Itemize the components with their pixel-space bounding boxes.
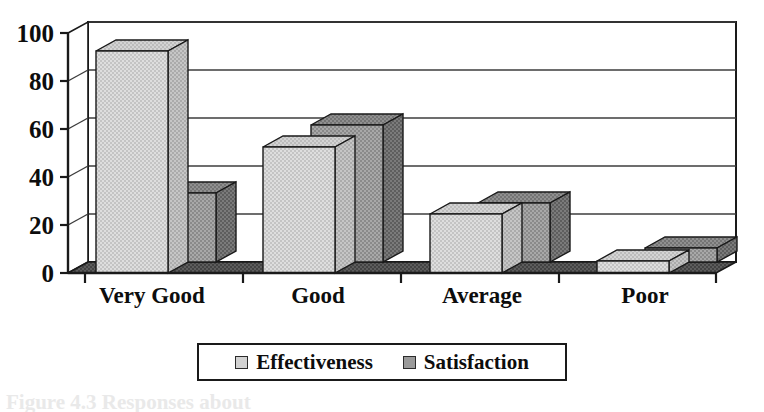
y-tick-label-80: 80 bbox=[29, 68, 54, 95]
bar-front-face bbox=[430, 214, 502, 273]
bar-chart: 100 80 60 40 20 0 Very Good Good Average bbox=[0, 0, 764, 316]
bar-front-face bbox=[597, 261, 669, 273]
bar-front-face bbox=[263, 147, 335, 273]
plot-side-wall bbox=[68, 22, 88, 273]
bar-front-face bbox=[96, 51, 168, 273]
legend-label-effectiveness: Effectiveness bbox=[256, 352, 373, 373]
y-tick-label-60: 60 bbox=[29, 116, 54, 143]
bar-side-face bbox=[335, 136, 355, 273]
y-tick-label-20: 20 bbox=[29, 212, 54, 239]
x-tick-label-good: Good bbox=[291, 283, 345, 308]
chart-canvas: 100 80 60 40 20 0 Very Good Good Average bbox=[0, 0, 764, 316]
bar-side-face bbox=[502, 203, 522, 273]
x-tick-label-poor: Poor bbox=[621, 283, 668, 308]
x-axis-ticks bbox=[85, 273, 716, 283]
y-tick-label-0: 0 bbox=[42, 260, 55, 287]
bar-very-good-effectiveness[interactable] bbox=[96, 40, 188, 273]
y-tick-label-100: 100 bbox=[17, 20, 55, 47]
bar-side-face bbox=[168, 40, 188, 273]
legend-swatch-icon bbox=[235, 356, 248, 369]
x-tick-label-average: Average bbox=[442, 283, 522, 308]
legend-label-satisfaction: Satisfaction bbox=[424, 352, 529, 373]
bar-poor-effectiveness[interactable] bbox=[597, 250, 689, 273]
bar-side-face bbox=[550, 192, 570, 262]
bar-average-effectiveness[interactable] bbox=[430, 203, 522, 273]
bar-good-effectiveness[interactable] bbox=[263, 136, 355, 273]
side-wall-poly bbox=[68, 22, 88, 273]
y-tick-label-40: 40 bbox=[29, 164, 54, 191]
x-axis-labels: Very Good Good Average Poor bbox=[99, 283, 669, 308]
legend-swatch-icon bbox=[403, 356, 416, 369]
figure-caption-strip: Figure 4.3 Responses about bbox=[0, 392, 764, 412]
figure-caption: Figure 4.3 Responses about bbox=[0, 392, 764, 412]
chart-legend: Effectiveness Satisfaction bbox=[197, 343, 567, 381]
bar-side-face bbox=[216, 182, 236, 262]
y-axis-labels: 100 80 60 40 20 0 bbox=[17, 20, 55, 287]
bar-side-face bbox=[383, 114, 403, 262]
legend-entry-effectiveness[interactable]: Effectiveness bbox=[235, 352, 373, 373]
figure-container: 100 80 60 40 20 0 Very Good Good Average bbox=[0, 0, 764, 412]
bar-group-good bbox=[263, 114, 403, 273]
x-tick-label-very-good: Very Good bbox=[99, 283, 205, 308]
legend-entry-satisfaction[interactable]: Satisfaction bbox=[403, 352, 529, 373]
bar-group-average bbox=[430, 192, 570, 273]
